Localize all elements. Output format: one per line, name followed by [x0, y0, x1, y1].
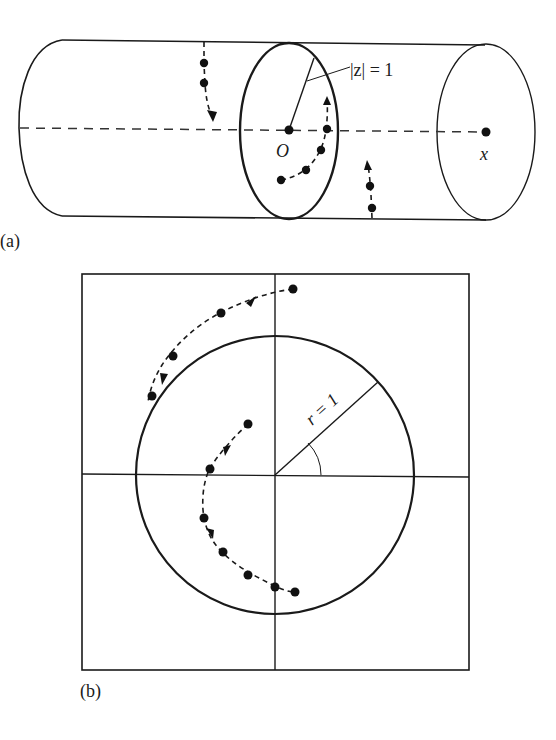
arrow-icon: [323, 96, 331, 105]
x-point: [482, 128, 491, 137]
arrow-icon: [364, 160, 372, 170]
figure: |z| = 1 O x (a): [0, 0, 556, 740]
panel-a: |z| = 1 O x (a): [0, 40, 535, 252]
cylinder-top-edge: [62, 40, 485, 45]
arrow-icon: [223, 445, 231, 456]
panel-label-b: (b): [80, 681, 101, 702]
trajectory-a3: [364, 160, 376, 218]
x-label: x: [479, 144, 488, 164]
trajectory-a1: [200, 42, 217, 122]
x-axis-dashed: [20, 128, 486, 132]
radius-label-b: r = 1: [301, 389, 342, 429]
cylinder-bottom-edge: [62, 216, 486, 220]
angle-arc: [308, 443, 321, 475]
panel-b: r = 1 (b): [80, 274, 469, 702]
arrow-icon: [160, 373, 168, 385]
arrow-icon: [207, 110, 217, 122]
origin-point: [285, 126, 294, 135]
radius-label-a: |z| = 1: [350, 60, 393, 80]
origin-label: O: [276, 141, 289, 161]
radius-line: [289, 58, 314, 130]
panel-label-a: (a): [0, 231, 20, 252]
trajectory-b2: [200, 420, 300, 597]
